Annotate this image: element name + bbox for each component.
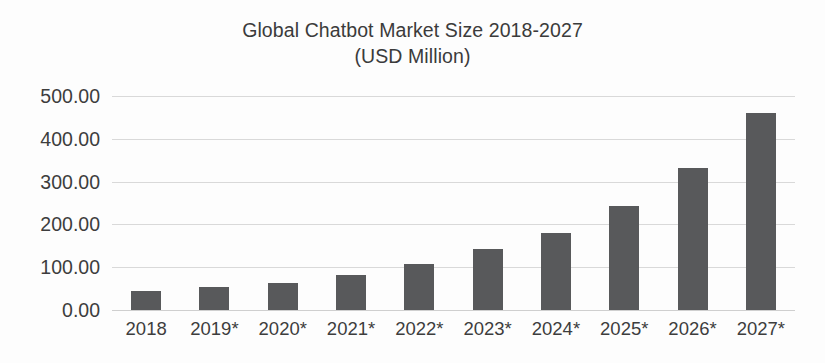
y-tick-label: 300.00 [8,170,100,193]
x-tick-label: 2021* [317,318,385,340]
y-tick-label: 0.00 [8,299,100,322]
chart-title: Global Chatbot Market Size 2018-2027 (US… [0,18,825,69]
y-tick-label: 400.00 [8,127,100,150]
x-tick-label: 2019* [180,318,248,340]
bar [336,275,366,310]
bar [199,287,229,310]
bar [268,283,298,310]
chart-title-line-1: Global Chatbot Market Size 2018-2027 [0,18,825,44]
bar [473,249,503,310]
x-tick-label: 2023* [454,318,522,340]
chart-title-line-2: (USD Million) [0,44,825,70]
chart-figure: Global Chatbot Market Size 2018-2027 (US… [0,0,825,363]
x-axis: 20182019*2020*2021*2022*2023*2024*2025*2… [112,318,795,348]
y-tick-label: 200.00 [8,213,100,236]
x-tick-label: 2020* [249,318,317,340]
x-tick-label: 2024* [522,318,590,340]
x-tick-label: 2026* [659,318,727,340]
y-axis: 0.00100.00200.00300.00400.00500.00 [0,96,100,310]
x-tick-label: 2027* [727,318,795,340]
y-tick-label: 500.00 [8,85,100,108]
y-tick-label: 100.00 [8,256,100,279]
bar [404,264,434,310]
bar [541,233,571,310]
bar [746,113,776,310]
x-tick-label: 2022* [385,318,453,340]
bar-series [112,96,795,310]
axis-baseline [112,310,795,311]
x-tick-label: 2025* [590,318,658,340]
x-tick-label: 2018 [112,318,180,340]
bar [131,291,161,310]
bar [609,206,639,310]
bar [678,168,708,310]
